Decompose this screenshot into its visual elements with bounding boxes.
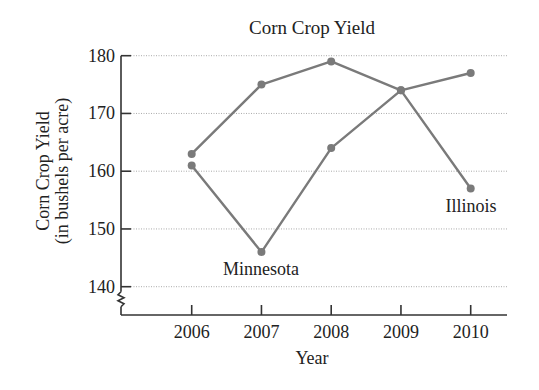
y-tick-label: 180 [88, 46, 115, 66]
data-point [188, 161, 196, 169]
data-point [397, 86, 405, 94]
y-axis-subtitle: (in bushels per acre) [52, 98, 73, 244]
x-tick-label: 2008 [313, 322, 349, 342]
series-line-minnesota [192, 73, 471, 252]
series-label-illinois: Illinois [445, 196, 496, 216]
data-point [327, 144, 335, 152]
x-tick-label: 2009 [383, 322, 419, 342]
axis-break-icon [118, 292, 124, 307]
data-point [467, 185, 475, 193]
y-axis: 140150160170180 [88, 46, 131, 315]
y-tick-label: 160 [88, 161, 115, 181]
y-tick-label: 140 [88, 277, 115, 297]
data-point [327, 57, 335, 65]
x-tick-label: 2006 [174, 322, 210, 342]
data-point [188, 150, 196, 158]
y-axis-title-group: Corn Crop Yield [33, 111, 53, 230]
data-point [467, 69, 475, 77]
y-tick-label: 150 [88, 219, 115, 239]
x-tick-label: 2010 [453, 322, 489, 342]
x-axis: 20062007200820092010 [121, 305, 507, 342]
y-tick-label: 170 [88, 103, 115, 123]
x-axis-title: Year [295, 348, 328, 368]
line-chart: Corn Crop Yield 140150160170180 20062007… [0, 0, 539, 390]
series-label-minnesota: Minnesota [223, 259, 299, 279]
series-group [188, 57, 475, 256]
data-point [257, 81, 265, 89]
gridlines [131, 56, 507, 287]
y-axis-subtitle-group: (in bushels per acre) [52, 98, 73, 244]
y-axis-title: Corn Crop Yield [33, 111, 53, 230]
x-tick-label: 2007 [243, 322, 279, 342]
series-line-illinois [192, 61, 471, 188]
chart-title: Corn Crop Yield [249, 17, 375, 38]
data-point [257, 248, 265, 256]
